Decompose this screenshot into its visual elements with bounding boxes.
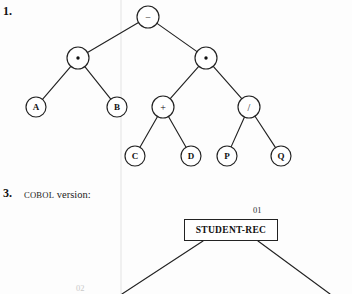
level-number-02: 02 <box>76 283 85 293</box>
cobol-branch-line <box>258 241 330 294</box>
student-rec-box: STUDENT-REC <box>184 219 278 241</box>
cobol-edge-group <box>122 241 330 294</box>
cobol-branch-lines <box>0 0 352 294</box>
cobol-branch-line <box>122 241 203 294</box>
level-number-01: 01 <box>253 205 262 215</box>
scanned-page: 1. −AB+/CDPQ 3. COBOL version: 01 STUDEN… <box>0 0 352 294</box>
